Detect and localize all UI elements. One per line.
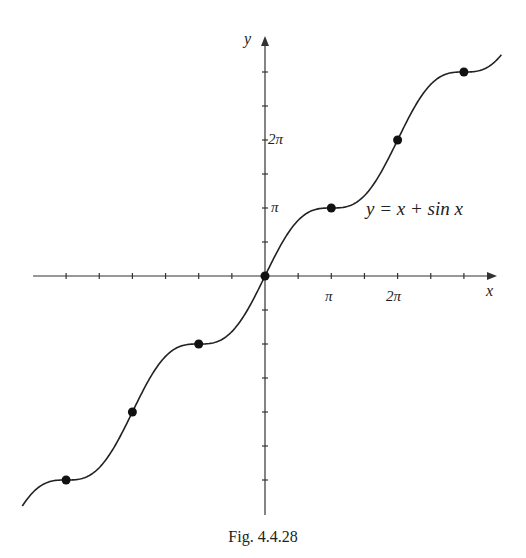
y-tick-label-2pi: 2π [268, 131, 283, 148]
y-tick-label-pi: π [271, 199, 279, 216]
plot-area [0, 0, 526, 558]
marked-point [393, 136, 402, 145]
marked-point [327, 204, 336, 213]
y-axis-label: y [244, 30, 251, 48]
x-tick-label-pi: π [325, 288, 333, 305]
x-axis-arrow-icon [487, 272, 497, 280]
marked-point [459, 68, 468, 77]
marked-point [128, 408, 137, 417]
y-axis-arrow-icon [261, 36, 269, 46]
marked-point [194, 340, 203, 349]
function-curve [22, 55, 501, 506]
x-axis-label: x [486, 282, 493, 300]
x-tick-label-2pi: 2π [386, 288, 401, 305]
curve-label: y = x + sin x [366, 198, 463, 220]
marked-point [261, 272, 270, 281]
figure-caption: Fig. 4.4.28 [0, 528, 526, 546]
marked-point [62, 476, 71, 485]
